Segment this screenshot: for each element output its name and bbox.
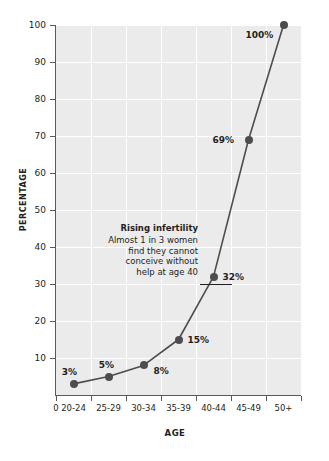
annotation-line-1: Almost 1 in 3 women [97,235,198,246]
data-point-marker [245,136,253,144]
data-point-label: 15% [188,336,210,345]
data-point-marker [140,361,148,369]
data-point-marker [105,373,113,381]
data-point-label: 69% [213,136,235,145]
data-point-label: 32% [223,273,245,282]
data-point-label: 100% [246,31,274,40]
data-point-marker [70,380,78,388]
data-point-marker [175,336,183,344]
data-point-marker [210,273,218,281]
data-point-label: 5% [99,361,114,370]
annotation-callout: Rising infertility Almost 1 in 3 women f… [97,223,198,277]
x-axis-title: AGE [130,428,220,438]
annotation-line-2: find they cannot [97,246,198,257]
annotation-leader-line [200,284,232,285]
annotation-line-3: conceive without [97,256,198,267]
data-point-marker [280,21,288,29]
annotation-title: Rising infertility [97,223,198,234]
annotation-line-4: help at age 40 [97,267,198,278]
y-axis-title: PERCENTAGE [19,155,28,245]
data-point-label: 3% [62,368,77,377]
chart-canvas: 102030405060708090100 020-2425-2930-3435… [0,0,329,461]
data-point-label: 8% [154,367,169,376]
